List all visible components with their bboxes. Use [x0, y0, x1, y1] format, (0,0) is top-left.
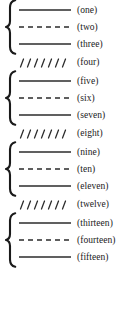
solid-line-icon: [18, 146, 72, 158]
legend-group: (five) (six) (seven): [0, 71, 133, 125]
legend-group: (nine) (ten) (eleven): [0, 142, 133, 196]
left-curly-brace-icon: [0, 0, 18, 54]
dashed-line-icon: [18, 92, 72, 104]
legend-entry: (four): [0, 54, 133, 71]
legend-rows: (thirteen) (fourteen) (fifteen): [18, 213, 133, 267]
legend-figure: (one) (two) (three): [0, 0, 133, 318]
legend-entry-label: (fifteen): [77, 252, 109, 263]
left-curly-brace-icon: [0, 142, 18, 196]
left-curly-brace-icon: [0, 213, 18, 267]
legend-entry-label: (twelve): [77, 199, 109, 210]
legend-entry: (three): [18, 36, 133, 52]
legend-entry: (fifteen): [18, 249, 133, 265]
hatched-line-icon: [18, 199, 72, 211]
legend-entry-label: (thirteen): [77, 218, 113, 229]
hatched-line-icon: [18, 128, 72, 140]
legend-entry: (twelve): [0, 196, 133, 213]
legend-rows: (nine) (ten) (eleven): [18, 142, 133, 196]
solid-line-icon: [18, 38, 72, 50]
legend-entry: (fourteen): [18, 232, 133, 248]
solid-line-icon: [18, 180, 72, 192]
solid-line-icon: [18, 4, 72, 16]
solid-line-icon: [18, 109, 72, 121]
legend-entry-label: (eleven): [77, 181, 109, 192]
legend-entry-label: (five): [77, 76, 98, 87]
legend-entry-label: (fourteen): [77, 235, 115, 246]
legend-entry-label: (one): [77, 5, 97, 16]
solid-line-icon: [18, 217, 72, 229]
legend-group: (thirteen) (fourteen) (fifteen): [0, 213, 133, 267]
solid-line-icon: [18, 251, 72, 263]
hatched-line-icon: [18, 57, 72, 69]
legend-entry-label: (seven): [77, 110, 105, 121]
legend-entry-label: (eight): [77, 128, 103, 139]
legend-entry-label: (six): [77, 93, 95, 104]
legend-entry-label: (four): [77, 57, 99, 68]
legend-entry: (eleven): [18, 178, 133, 194]
legend-entry-label: (two): [77, 22, 98, 33]
legend-entry: (six): [18, 90, 133, 106]
legend-entry: (one): [18, 2, 133, 18]
legend-rows: (five) (six) (seven): [18, 71, 133, 125]
left-curly-brace-icon: [0, 71, 18, 125]
legend-entry: (eight): [0, 125, 133, 142]
legend-rows: (one) (two) (three): [18, 0, 133, 54]
legend-entry-label: (ten): [77, 164, 95, 175]
dashed-line-icon: [18, 21, 72, 33]
solid-line-icon: [18, 75, 72, 87]
legend-entry: (nine): [18, 144, 133, 160]
legend-entry-label: (nine): [77, 147, 100, 158]
legend-entry: (ten): [18, 161, 133, 177]
dashed-line-icon: [18, 163, 72, 175]
legend-entry: (five): [18, 73, 133, 89]
legend-entry: (seven): [18, 107, 133, 123]
legend-entry: (two): [18, 19, 133, 35]
legend-entry: (thirteen): [18, 215, 133, 231]
legend-entry-label: (three): [77, 39, 103, 50]
dashed-line-icon: [18, 234, 72, 246]
legend-group: (one) (two) (three): [0, 0, 133, 54]
